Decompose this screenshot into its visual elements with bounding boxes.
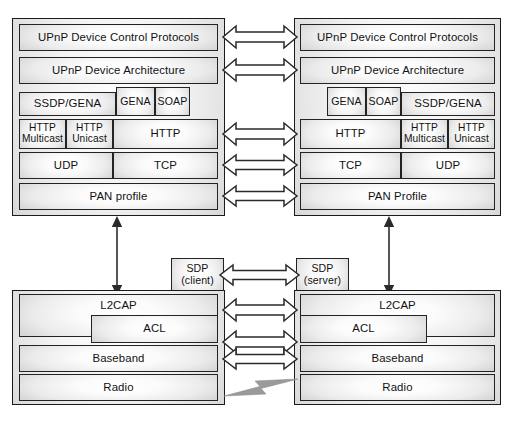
right-gena-label: GENA <box>331 96 361 107</box>
right-acl-label: ACL <box>352 323 374 335</box>
left-soap: SOAP <box>155 87 190 116</box>
radio-link-lightning-icon <box>224 377 298 399</box>
left-http-unicast-label: HTTP Unicast <box>72 123 107 144</box>
arrow-right-pan-to-l2cap <box>380 216 398 296</box>
right-pan-profile-label: PAN Profile <box>368 191 427 203</box>
right-gena: GENA <box>327 87 366 116</box>
left-ssdp-gena: SSDP/GENA <box>19 92 116 116</box>
right-http-unicast-label: HTTP Unicast <box>454 123 489 144</box>
right-upnp-device-architecture: UPnP Device Architecture <box>300 57 495 84</box>
left-http-label: HTTP <box>150 128 180 140</box>
right-soap-label: SOAP <box>369 96 399 107</box>
arrow-architecture <box>222 56 298 84</box>
left-pan-profile-label: PAN profile <box>90 191 148 203</box>
right-acl: ACL <box>300 315 427 343</box>
left-acl-label: ACL <box>143 323 165 335</box>
sdp-server: SDP (server) <box>296 258 349 291</box>
left-udp: UDP <box>19 152 113 179</box>
left-radio-label: Radio <box>103 382 133 394</box>
left-udp-label: UDP <box>54 160 78 172</box>
arrow-http <box>222 120 298 148</box>
sdp-client-label: SDP (client) <box>181 263 214 285</box>
left-http: HTTP <box>113 119 218 149</box>
arrow-baseband <box>222 346 298 372</box>
right-http: HTTP <box>300 119 401 149</box>
arrow-transport <box>222 152 298 178</box>
left-gena: GENA <box>116 87 155 116</box>
right-tcp: TCP <box>300 152 401 179</box>
arrow-sdp <box>219 261 300 289</box>
right-ssdp-gena: SSDP/GENA <box>401 92 495 116</box>
right-baseband-label: Baseband <box>371 353 423 365</box>
right-upnp-device-control-protocols: UPnP Device Control Protocols <box>300 24 495 51</box>
right-http-unicast: HTTP Unicast <box>448 119 495 149</box>
left-http-multicast: HTTP Multicast <box>19 119 66 149</box>
right-radio-label: Radio <box>382 382 412 394</box>
left-upnp-device-architecture: UPnP Device Architecture <box>19 57 218 84</box>
arrow-acl <box>222 328 298 356</box>
diagram-canvas: UPnP Device Control Protocols UPnP Devic… <box>0 0 513 437</box>
right-soap: SOAP <box>366 87 401 116</box>
left-http-multicast-label: HTTP Multicast <box>22 123 63 144</box>
left-dcp-label: UPnP Device Control Protocols <box>38 32 199 44</box>
sdp-server-label: SDP (server) <box>304 263 341 285</box>
arrow-l2cap <box>222 296 298 324</box>
left-baseband-label: Baseband <box>92 353 144 365</box>
left-http-unicast: HTTP Unicast <box>66 119 113 149</box>
right-l2cap-label: L2CAP <box>379 300 416 312</box>
left-pan-profile: PAN profile <box>19 183 218 210</box>
left-ssdp-gena-label: SSDP/GENA <box>34 98 101 110</box>
right-architecture-label: UPnP Device Architecture <box>331 65 464 77</box>
left-tcp-label: TCP <box>154 160 177 172</box>
left-radio: Radio <box>19 374 218 401</box>
left-baseband: Baseband <box>19 345 218 372</box>
left-acl: ACL <box>91 315 218 343</box>
left-gena-label: GENA <box>120 96 150 107</box>
right-pan-profile: PAN Profile <box>300 183 495 210</box>
arrow-pan <box>222 183 298 209</box>
right-http-multicast-label: HTTP Multicast <box>404 123 445 144</box>
right-radio: Radio <box>300 374 495 401</box>
right-udp-label: UDP <box>436 160 460 172</box>
arrow-left-pan-to-l2cap <box>108 216 126 296</box>
right-tcp-label: TCP <box>339 160 362 172</box>
right-baseband: Baseband <box>300 345 495 372</box>
left-architecture-label: UPnP Device Architecture <box>52 65 185 77</box>
left-l2cap-label: L2CAP <box>100 300 137 312</box>
right-udp: UDP <box>401 152 495 179</box>
left-tcp: TCP <box>113 152 218 179</box>
left-soap-label: SOAP <box>158 96 188 107</box>
sdp-client: SDP (client) <box>171 258 224 291</box>
left-upnp-device-control-protocols: UPnP Device Control Protocols <box>19 24 218 51</box>
arrow-dcp <box>222 23 298 51</box>
right-dcp-label: UPnP Device Control Protocols <box>317 32 478 44</box>
right-http-multicast: HTTP Multicast <box>401 119 448 149</box>
right-ssdp-gena-label: SSDP/GENA <box>414 98 481 110</box>
right-http-label: HTTP <box>335 128 365 140</box>
